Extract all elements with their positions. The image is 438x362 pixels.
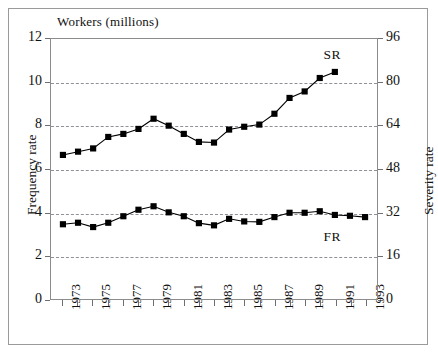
x-axis-tick [153,300,154,306]
y-axis-left-tick-label: 10 [0,73,42,89]
data-point-marker [181,131,187,137]
x-axis-tick [305,300,306,306]
y-axis-right-label: Severity rate [421,146,437,215]
data-point-marker [211,139,217,145]
y-axis-right-tick-label: 80 [386,73,400,89]
data-point-marker [75,149,81,155]
data-point-marker [241,218,247,224]
data-point-marker [90,145,96,151]
y-axis-right-tick-label: 64 [386,116,400,132]
data-point-marker [347,213,353,219]
data-point-marker [60,221,66,227]
x-axis-tick [168,300,169,306]
y-axis-left-tick-label: 2 [0,247,42,263]
data-point-marker [286,95,292,101]
data-point-marker [332,69,338,75]
data-point-marker [150,203,156,209]
data-point-marker [166,123,172,129]
y-axis-right-tick-label: 32 [386,204,400,220]
y-axis-left-tick-label: 8 [0,116,42,132]
data-point-marker [60,152,66,158]
data-point-marker [135,207,141,213]
plot-area [50,38,378,300]
x-axis-tick [123,300,124,306]
data-point-marker [105,134,111,140]
data-point-marker [120,131,126,137]
y-axis-right-tick [378,213,383,214]
data-point-marker [211,222,217,228]
chart-title: Workers (millions) [57,14,159,30]
x-axis-tick [351,300,352,306]
data-point-marker [196,220,202,226]
data-point-marker [166,209,172,215]
series-fr [60,203,368,230]
y-axis-left-tick-label: 6 [0,160,42,176]
data-point-marker [75,220,81,226]
x-axis-tick [275,300,276,306]
data-point-marker [332,212,338,218]
x-axis-tick [214,300,215,306]
x-axis-tick [108,300,109,306]
data-point-marker [135,126,141,132]
data-point-marker [256,219,262,225]
y-axis-right-tick-label: 16 [386,247,400,263]
data-point-marker [90,224,96,230]
data-point-marker [362,214,368,220]
x-axis-tick [184,300,185,306]
y-axis-left-tick-label: 4 [0,204,42,220]
data-point-marker [286,210,292,216]
x-axis-tick [320,300,321,306]
x-axis-tick [290,300,291,306]
data-point-marker [226,216,232,222]
x-axis-tick [336,300,337,306]
x-axis-tick [260,300,261,306]
y-axis-left-tick [45,300,50,301]
data-point-marker [120,213,126,219]
data-point-marker [226,126,232,132]
x-axis-tick [77,300,78,306]
data-point-marker [317,208,323,214]
data-point-marker [271,111,277,117]
data-point-marker [196,139,202,145]
data-point-marker [241,124,247,130]
data-point-marker [271,214,277,220]
x-axis-tick [199,300,200,306]
x-axis-tick [92,300,93,306]
data-point-marker [150,116,156,122]
data-point-marker [302,88,308,94]
data-point-marker [302,210,308,216]
chart-figure: Workers (millions) Frequency rate Severi… [0,0,438,362]
y-axis-right-tick [378,82,383,83]
y-axis-left-tick-label: 0 [0,291,42,307]
y-axis-right-tick-label: 96 [386,29,400,45]
y-axis-right-tick [378,256,383,257]
y-axis-right-tick-label: 48 [386,160,400,176]
x-axis-tick [229,300,230,306]
data-point-marker [181,213,187,219]
y-axis-left-tick-label: 12 [0,29,42,45]
x-axis-tick [62,300,63,306]
data-point-marker [256,122,262,128]
data-point-marker [317,75,323,81]
series-label-sr: SR [324,47,341,63]
data-point-marker [105,220,111,226]
y-axis-right-tick [378,169,383,170]
x-axis-tick [138,300,139,306]
series-label-fr: FR [324,229,341,245]
x-axis-tick [244,300,245,306]
y-axis-right-tick [378,38,383,39]
series-sr [60,69,338,158]
y-axis-right-tick [378,125,383,126]
x-axis-tick [366,300,367,306]
series-layer [51,39,377,299]
